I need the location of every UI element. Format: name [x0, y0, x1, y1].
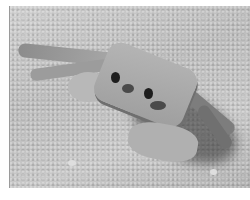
crab-marking: [122, 84, 134, 93]
crab-eye: [111, 72, 120, 83]
pebble: [68, 160, 76, 166]
pebble: [210, 169, 217, 175]
crab-photo: [9, 6, 250, 188]
crab-marking: [150, 101, 166, 110]
crab-eye: [144, 88, 153, 99]
